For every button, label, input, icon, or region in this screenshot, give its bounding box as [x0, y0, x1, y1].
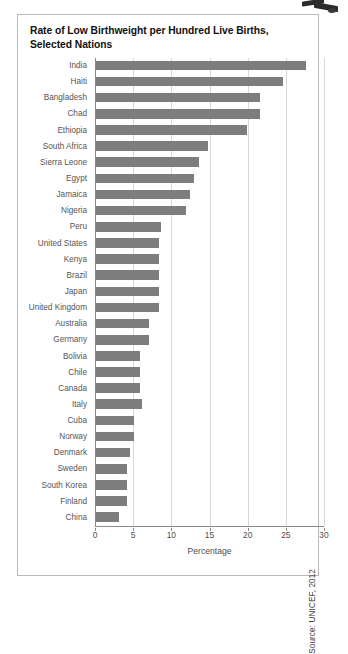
bar-chile [96, 367, 140, 377]
bar-italy [96, 399, 142, 409]
bar-label-ethiopia: Ethiopia [0, 126, 87, 136]
bar-south-africa [96, 141, 208, 151]
bar-label-finland: Finland [0, 497, 87, 507]
bar-germany [96, 335, 149, 345]
bar-haiti [96, 77, 283, 87]
bar-row: India [18, 58, 320, 74]
bar-denmark [96, 448, 130, 458]
bar-label-bolivia: Bolivia [0, 352, 87, 362]
bar-label-japan: Japan [0, 287, 87, 297]
bar-row: Denmark [18, 445, 320, 461]
bar-label-germany: Germany [0, 335, 87, 345]
x-axis-label: Percentage [95, 546, 324, 556]
bar-row: Sweden [18, 461, 320, 477]
scan-mark-dot [328, 8, 336, 13]
bar-label-chile: Chile [0, 368, 87, 378]
bar-label-china: China [0, 513, 87, 523]
bar-bangladesh [96, 93, 260, 103]
bar-label-sweden: Sweden [0, 464, 87, 474]
bar-china [96, 512, 119, 522]
bar-row: Germany [18, 332, 320, 348]
bar-row: Peru [18, 219, 320, 235]
bar-row: Australia [18, 316, 320, 332]
bar-label-haiti: Haiti [0, 77, 87, 87]
bar-row: Egypt [18, 171, 320, 187]
bar-row: Canada [18, 381, 320, 397]
bar-nigeria [96, 206, 186, 216]
x-tick-label-15: 15 [205, 530, 214, 540]
bar-united-states [96, 238, 159, 248]
bar-egypt [96, 174, 194, 184]
bar-row: Japan [18, 284, 320, 300]
bar-india [96, 61, 306, 71]
bar-row: Cuba [18, 413, 320, 429]
bar-brazil [96, 270, 159, 280]
bar-row: Ethiopia [18, 123, 320, 139]
bar-label-jamaica: Jamaica [0, 190, 87, 200]
x-axis-line [95, 526, 324, 527]
x-tick-label-5: 5 [131, 530, 136, 540]
bar-united-kingdom [96, 303, 159, 313]
bar-label-norway: Norway [0, 432, 87, 442]
bar-label-bangladesh: Bangladesh [0, 93, 87, 103]
bar-row: Haiti [18, 74, 320, 90]
bar-row: Norway [18, 429, 320, 445]
x-tick-label-0: 0 [93, 530, 98, 540]
bar-kenya [96, 254, 159, 264]
bar-cuba [96, 416, 134, 426]
bar-label-united-kingdom: United Kingdom [0, 303, 87, 313]
bar-row: Brazil [18, 268, 320, 284]
bar-row: Italy [18, 397, 320, 413]
bar-label-denmark: Denmark [0, 448, 87, 458]
bar-label-brazil: Brazil [0, 271, 87, 281]
bar-finland [96, 496, 127, 506]
scan-artifact [298, 0, 344, 14]
bar-label-sierra-leone: Sierra Leone [0, 158, 87, 168]
gridline-30 [324, 58, 325, 526]
x-tick-label-10: 10 [167, 530, 176, 540]
bar-row: China [18, 510, 320, 526]
bar-row: Jamaica [18, 187, 320, 203]
bar-chart: IndiaHaitiBangladeshChadEthiopiaSouth Af… [18, 58, 320, 573]
bar-label-south-africa: South Africa [0, 142, 87, 152]
figure-container: Rate of Low Birthweight per Hundred Live… [17, 14, 319, 576]
bar-japan [96, 287, 159, 297]
bar-row: Finland [18, 494, 320, 510]
bar-peru [96, 222, 161, 232]
bar-jamaica [96, 190, 190, 200]
bar-label-australia: Australia [0, 319, 87, 329]
x-tick-label-25: 25 [281, 530, 290, 540]
bar-label-chad: Chad [0, 109, 87, 119]
figure-title: Rate of Low Birthweight per Hundred Live… [18, 15, 318, 52]
bar-label-india: India [0, 61, 87, 71]
bar-row: United Kingdom [18, 300, 320, 316]
source-note: Source: UNICEF, 2012 [308, 569, 317, 654]
bar-row: Bangladesh [18, 90, 320, 106]
bar-sierra-leone [96, 157, 199, 167]
bar-row: United States [18, 236, 320, 252]
bar-label-south-korea: South Korea [0, 481, 87, 491]
bar-row: Chad [18, 106, 320, 122]
bar-bolivia [96, 351, 140, 361]
bar-rows: IndiaHaitiBangladeshChadEthiopiaSouth Af… [18, 58, 320, 526]
bar-label-peru: Peru [0, 222, 87, 232]
bar-south-korea [96, 480, 127, 490]
bar-row: Bolivia [18, 348, 320, 364]
bar-row: Chile [18, 365, 320, 381]
bar-row: Sierra Leone [18, 155, 320, 171]
plot-area: IndiaHaitiBangladeshChadEthiopiaSouth Af… [18, 58, 320, 573]
bar-label-cuba: Cuba [0, 416, 87, 426]
bar-row: Kenya [18, 252, 320, 268]
bar-label-kenya: Kenya [0, 255, 87, 265]
bar-australia [96, 319, 149, 329]
x-tick-label-20: 20 [243, 530, 252, 540]
bar-row: South Africa [18, 139, 320, 155]
x-tick-label-30: 30 [319, 530, 328, 540]
bar-label-italy: Italy [0, 400, 87, 410]
bar-label-nigeria: Nigeria [0, 206, 87, 216]
bar-sweden [96, 464, 127, 474]
x-axis-ticks: 051015202530 [18, 528, 320, 544]
bar-row: Nigeria [18, 203, 320, 219]
bar-label-egypt: Egypt [0, 174, 87, 184]
bar-ethiopia [96, 125, 247, 135]
